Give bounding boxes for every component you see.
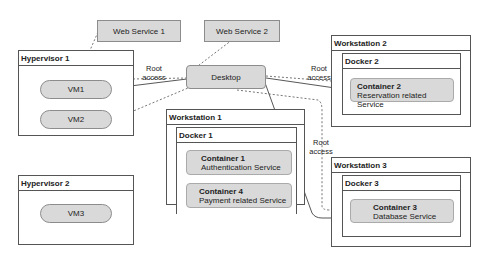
web-service-2[interactable]: Web Service 2	[204, 20, 280, 42]
container-3-title: Container 3	[373, 203, 453, 212]
vm3-label: VM3	[68, 209, 84, 218]
vm1-label: VM1	[68, 85, 84, 94]
container-4[interactable]: Container 4 Payment related Service	[186, 183, 292, 208]
vm3[interactable]: VM3	[40, 204, 112, 223]
container-3-desc: Database Service	[373, 212, 436, 221]
web-service-1-label: Web Service 1	[113, 27, 165, 36]
desktop-label: Desktop	[211, 73, 240, 82]
docker-1-title: Docker 1	[177, 128, 296, 143]
container-2[interactable]: Container 2 Reservation related Service	[350, 78, 454, 102]
desktop-node[interactable]: Desktop	[186, 65, 266, 89]
container-4-title: Container 4	[199, 187, 291, 196]
vm2[interactable]: VM2	[40, 110, 112, 129]
hypervisor-1-title: Hypervisor 1	[19, 51, 133, 66]
container-2-title: Container 2	[357, 82, 453, 91]
root-access-label-3: Root access	[308, 138, 334, 156]
container-2-desc: Reservation related Service	[357, 91, 426, 109]
container-4-desc: Payment related Service	[199, 196, 286, 205]
web-service-1[interactable]: Web Service 1	[97, 20, 181, 42]
workstation-1-title: Workstation 1	[167, 110, 304, 125]
hypervisor-2-title: Hypervisor 2	[19, 176, 133, 191]
root-access-label-2: Root access	[306, 64, 332, 82]
vm2-label: VM2	[68, 115, 84, 124]
container-1[interactable]: Container 1 Authentication Service	[186, 150, 292, 175]
docker-2-title: Docker 2	[343, 54, 460, 69]
vm1[interactable]: VM1	[40, 80, 112, 99]
root-access-label-1: Root access	[141, 64, 167, 82]
workstation-3-title: Workstation 3	[332, 158, 470, 173]
workstation-2-title: Workstation 2	[332, 36, 470, 51]
docker-3-title: Docker 3	[343, 176, 460, 191]
web-service-2-label: Web Service 2	[216, 27, 268, 36]
container-3[interactable]: Container 3 Database Service	[350, 199, 454, 223]
container-1-desc: Authentication Service	[201, 163, 281, 172]
container-1-title: Container 1	[201, 154, 291, 163]
